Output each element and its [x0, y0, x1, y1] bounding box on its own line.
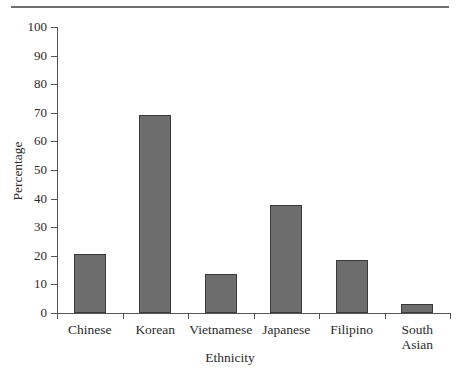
x-axis-tick	[123, 313, 124, 319]
x-axis-category-label: Vietnamese	[188, 322, 254, 337]
x-axis-tick	[385, 313, 386, 319]
y-axis-tick-label: 80	[0, 77, 47, 90]
y-axis-tick-label: 20	[0, 249, 47, 262]
x-axis-category-label: South Asian	[385, 322, 451, 352]
y-axis-tick-label: 10	[0, 277, 47, 290]
y-axis-tick	[51, 256, 57, 257]
bar	[336, 260, 368, 313]
bar	[139, 115, 171, 313]
y-axis-tick-label: 0	[0, 306, 47, 319]
y-axis-title: Percentage	[10, 116, 26, 226]
y-axis-tick	[51, 141, 57, 142]
bar	[205, 274, 237, 313]
x-axis-category-label: Korean	[123, 322, 189, 337]
y-axis-tick	[51, 27, 57, 28]
x-axis-tick	[254, 313, 255, 319]
y-axis-tick	[51, 284, 57, 285]
y-axis-tick	[51, 170, 57, 171]
y-axis-tick-label: 100	[0, 20, 47, 33]
y-axis-tick	[51, 56, 57, 57]
y-axis-tick	[51, 84, 57, 85]
x-axis-tick	[450, 313, 451, 319]
x-axis-category-label: Chinese	[57, 322, 123, 337]
y-axis-tick	[51, 113, 57, 114]
x-axis-tick	[188, 313, 189, 319]
top-horizontal-rule	[11, 6, 449, 8]
x-axis-tick	[319, 313, 320, 319]
bar	[74, 254, 106, 313]
x-axis-category-label: Filipino	[319, 322, 385, 337]
x-axis-tick	[57, 313, 58, 319]
x-axis-title: Ethnicity	[0, 350, 460, 366]
bar	[401, 304, 433, 313]
y-axis-tick	[51, 227, 57, 228]
y-axis-line	[57, 27, 58, 314]
y-axis-tick	[51, 199, 57, 200]
bar-chart-figure: 1009080706050403020100 ChineseKoreanViet…	[0, 0, 460, 379]
x-axis-category-label: Japanese	[254, 322, 320, 337]
y-axis-tick-label: 90	[0, 49, 47, 62]
bar	[270, 205, 302, 313]
